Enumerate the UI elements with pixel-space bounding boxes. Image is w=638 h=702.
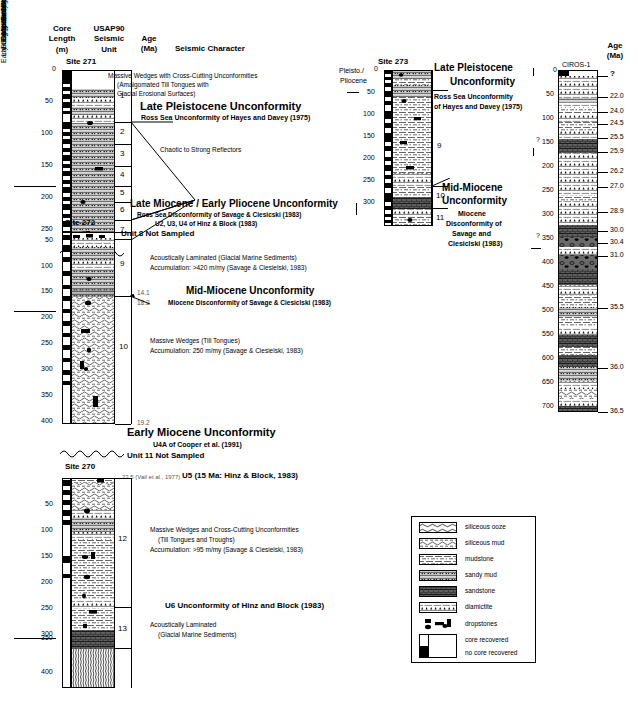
site-273-unit-axis [432,70,433,226]
site-272-depth-300: 300 [41,365,53,372]
site-273-lithology-svg [393,71,431,225]
site-270-lithology-svg [72,479,114,687]
site-270-depth-150: 150 [41,552,53,559]
ciros-age-6: 26.2 [610,167,624,174]
ciros-depth-0: 0 [553,66,557,73]
site-273-depth-250: 250 [363,176,375,183]
site-273-depth-150: 150 [363,132,375,139]
ciros-age-tick-12 [598,308,608,309]
site-273-epoch-pliocene: Pliocene [340,77,367,84]
site-273-unit-11: 11 [436,214,444,222]
mid-miocene-unconformity-sub-272: Miocene Disconformity of Savage & Ciesic… [168,300,331,307]
legend-label-core-recovered: core recovered [465,637,508,644]
legend-label-diamictite: diamictite [465,604,492,611]
ciros-depth-650: 650 [542,378,554,385]
ciros-age-tick-8 [598,212,608,213]
site-273-mid-miocene-l2: Unconformity [442,196,507,207]
ciros-age-tick-10 [598,243,608,244]
ciros-depth-700: 700 [542,402,554,409]
site-271-title: Site 271 [56,58,106,66]
legend-swatch-mudstone [419,554,457,565]
site-273-depth-0: 0 [374,65,378,72]
ciros-age-12: 35.5 [610,303,624,310]
ciros-age-tick-3 [598,124,608,125]
late-pleistocene-unconformity-sub: Ross Sea Unconformity of Hayes and Davey… [141,114,310,121]
site-272-title: Site 272 [55,219,105,227]
site-273-epoch-pleisto: Pleisto./ [339,67,364,74]
site-273-late-pleistocene-l4: of Hayes and Davey (1975) [434,103,522,110]
header-core-line3: (m) [40,46,84,54]
site-271-depth-0: 0 [52,65,56,72]
header-usap-line2: Seismic [86,35,132,43]
annotation-u5: U5 (15 Ma: Hinz & Block, 1983) [182,472,298,480]
site-270-unit-tick-top [115,478,131,479]
site-270-depth-400: 400 [41,668,53,675]
site-273-recovery-bar [384,70,392,226]
site-270-unit-12: 12 [118,535,127,543]
mid-miocene-unconformity-title-272: Mid-Miocene Unconformity [186,286,314,297]
ciros-epoch-early-oligocene: Early Oligocene [0,0,7,63]
ciros-age-10: 30.4 [610,238,624,245]
site-273-mid-miocene-l6: Ciesiclski (1983) [448,240,502,247]
site-271-depth-50: 50 [45,97,53,104]
ciros-depth-400: 400 [542,258,554,265]
site-272-unit-9: 9 [120,260,124,268]
legend-swatch-sandy-mud [419,570,457,581]
site-273-depth-50: 50 [367,88,375,95]
legend-label-siliceous-ooze: siliceous ooze [465,524,506,531]
legend-swatch-core-recovery [419,634,457,658]
ciros-depth-300: 300 [542,210,554,217]
annotation-massive-wedges-272-l2: Accumulation: 250 m/my (Savage & Ciesiel… [150,348,303,355]
ciros-age-header-l1: Age [598,42,632,50]
site-271-depth-250: 250 [41,225,53,232]
ciros-age-13: 36.0 [610,363,624,370]
site-272-unconformity-wave [60,448,124,458]
annotation-acoustically-laminated-270-l1: Acoustically Laminated [150,622,216,629]
site-270-unit-tick-bottom [115,648,131,649]
site-270-unit-13: 13 [118,625,127,633]
ciros-age-tick-14 [598,412,608,413]
site-273-mid-miocene-leader [432,178,454,190]
site-270-depth-350: 350 [41,634,53,641]
header-usap-line3: Unit [86,46,132,54]
site-271-unit-4: 4 [120,171,124,179]
site-273-mid-miocene-l4: Disconformity of [446,220,502,227]
legend-label-sandy-mud: sandy mud [465,572,497,579]
site-272-depth-400: 400 [41,417,53,424]
legend-label-siliceous-mud: siliceous mud [465,540,504,547]
header-age-line2: (Ma) [133,45,165,53]
site-273-late-pleistocene-l1: Late Pleistocene [434,63,513,74]
site-273-depth-300: 300 [363,198,375,205]
site-271-depth-150: 150 [41,161,53,168]
site-271-unit-tick-3 [115,166,131,167]
ciros-age-tick-6 [598,172,608,173]
dropstones-icon [423,618,455,631]
annotation-acoustically-laminated-270-l2: (Glacial Marine Sediments) [158,632,236,639]
early-miocene-unconformity-sub: U4A of Cooper et al. (1991) [153,441,242,448]
site-271-unit-tick-7 [115,239,131,240]
ciros-depth-150: 150 [542,138,554,145]
site-270-unit-axis [131,478,132,688]
site-270-depth-200: 200 [41,578,53,585]
site-273-late-pleistocene-l2: Unconformity [450,77,515,88]
ciros-age-7: 27.0 [610,182,624,189]
ciros-depth-200: 200 [542,162,554,169]
site-271-unit-tick-5 [115,202,131,203]
annotation-unit-11-not-sampled: Unit 11 Not Sampled [127,452,204,460]
site-271-unit-tick-2 [115,144,131,145]
legend-swatch-dropstones [423,618,455,631]
ciros-depth-250: 250 [542,186,554,193]
annotation-massive-wedges-272-l1: Massive Wedges (Till Tongues) [150,338,240,345]
header-core-length: Core Length (m) [40,25,84,54]
legend-swatch-sandstone [419,586,457,597]
site-273-depth-100: 100 [363,110,375,117]
ciros-age-4: 25.5 [610,133,624,140]
ciros-age-1: 22.0 [610,92,624,99]
site-273-mid-miocene-l5: Savage and [452,230,491,237]
site-272-depth-50: 50 [45,236,53,243]
site-273-epoch-divider-1 [347,92,359,93]
ciros-depth-450: 450 [542,282,554,289]
site-272-depth-250: 250 [41,339,53,346]
site-270-lithology-column [71,478,115,688]
ciros-age-11: 31.0 [610,251,624,258]
